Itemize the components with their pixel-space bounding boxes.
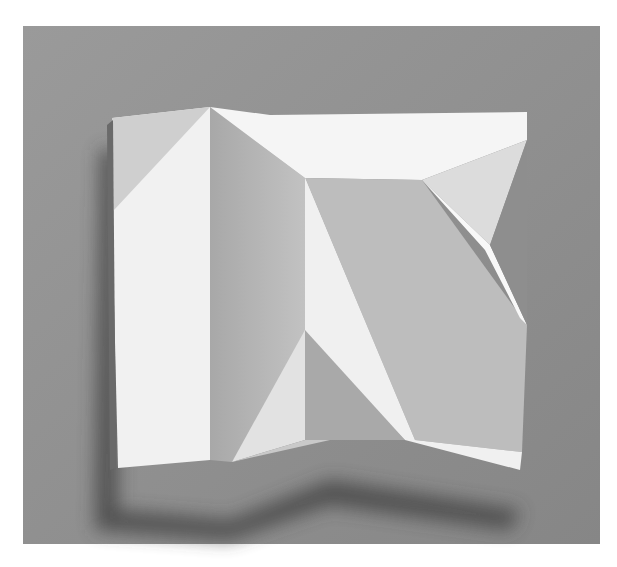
paper-sculpture-photo <box>0 0 617 567</box>
